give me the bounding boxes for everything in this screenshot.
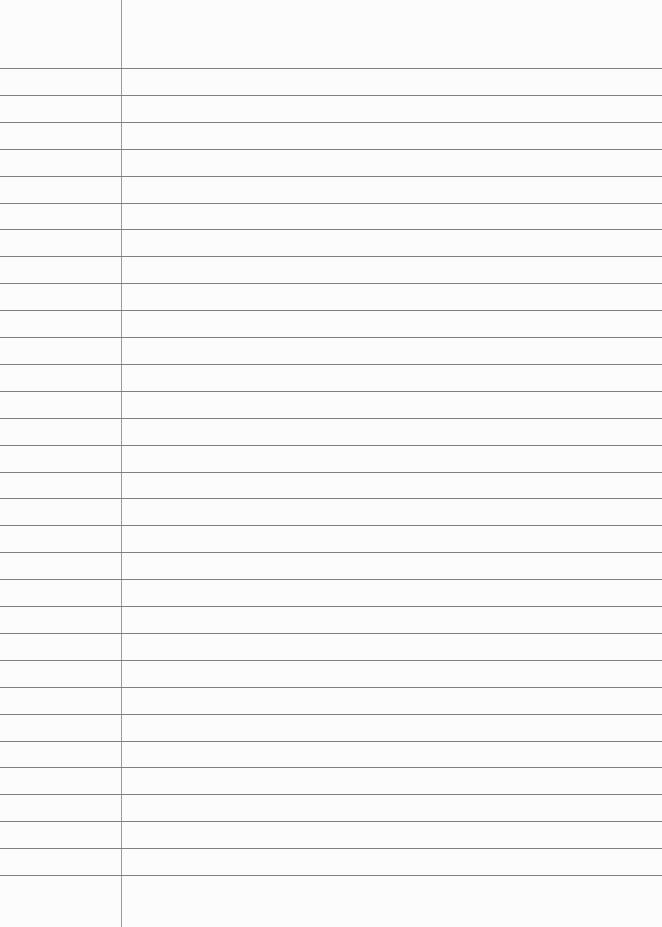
ruled-line — [0, 633, 662, 634]
ruled-line — [0, 741, 662, 742]
ruled-line — [0, 498, 662, 499]
ruled-line — [0, 606, 662, 607]
ruled-line — [0, 122, 662, 123]
ruled-line — [0, 149, 662, 150]
ruled-line — [0, 418, 662, 419]
ruled-line — [0, 767, 662, 768]
ruled-line — [0, 283, 662, 284]
ruled-line — [0, 256, 662, 257]
ruled-line — [0, 310, 662, 311]
ruled-line — [0, 687, 662, 688]
ruled-line — [0, 337, 662, 338]
ruled-line — [0, 445, 662, 446]
ruled-line — [0, 525, 662, 526]
ruled-line — [0, 552, 662, 553]
margin-line — [121, 0, 122, 927]
ruled-line — [0, 176, 662, 177]
ruled-line — [0, 364, 662, 365]
ruled-line — [0, 794, 662, 795]
ruled-line — [0, 848, 662, 849]
ruled-line — [0, 821, 662, 822]
ruled-line — [0, 95, 662, 96]
ruled-line — [0, 875, 662, 876]
ruled-line — [0, 472, 662, 473]
ruled-line — [0, 68, 662, 69]
ruled-line — [0, 714, 662, 715]
lined-paper-page — [0, 0, 662, 927]
ruled-line — [0, 203, 662, 204]
ruled-line — [0, 660, 662, 661]
ruled-line — [0, 229, 662, 230]
ruled-line — [0, 579, 662, 580]
ruled-line — [0, 391, 662, 392]
